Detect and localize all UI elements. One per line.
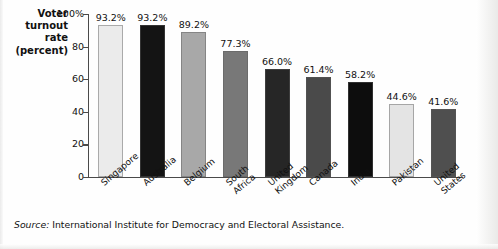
page-left-edge — [0, 0, 3, 249]
bar-item[interactable]: 89.2% — [181, 14, 206, 177]
bar-series: 93.2%93.2%89.2%77.3%66.0%61.4%58.2%44.6%… — [89, 14, 463, 177]
bar-item[interactable]: 93.2% — [98, 14, 123, 177]
y-tick-label-0: 0 — [50, 171, 84, 182]
bar-item[interactable]: 44.6% — [389, 14, 414, 177]
bar-item[interactable]: 66.0% — [265, 14, 290, 177]
bar-item[interactable]: 41.6% — [431, 14, 456, 177]
bar-value-label: 44.6% — [387, 91, 417, 102]
page-bottom-edge — [0, 244, 498, 249]
bar-singapore[interactable] — [98, 25, 123, 177]
page-right-edge — [476, 0, 498, 249]
y-tick-label-20: 20 — [50, 138, 84, 149]
bar-value-label: 77.3% — [220, 38, 250, 49]
bar-value-label: 61.4% — [303, 64, 333, 75]
source-note: Source: International Institute for Demo… — [14, 219, 344, 230]
bar-item[interactable]: 61.4% — [306, 14, 331, 177]
bar-item[interactable]: 77.3% — [223, 14, 248, 177]
y-axis-tick-labels: 100%806040200 — [48, 14, 84, 178]
y-tick-label-100: 100% — [50, 8, 84, 19]
y-tick-0 — [83, 177, 89, 178]
bar-value-label: 41.6% — [428, 96, 458, 107]
bar-australia[interactable] — [140, 25, 165, 177]
bar-value-label: 93.2% — [96, 12, 126, 23]
bar-value-label: 93.2% — [137, 12, 167, 23]
bar-item[interactable]: 93.2% — [140, 14, 165, 177]
source-prefix: Source: — [14, 219, 49, 230]
source-text: International Institute for Democracy an… — [49, 219, 344, 230]
bar-belgium[interactable] — [181, 32, 206, 177]
bar-value-label: 89.2% — [179, 19, 209, 30]
y-tick-label-80: 80 — [50, 41, 84, 52]
bar-item[interactable]: 58.2% — [348, 14, 373, 177]
y-tick-label-60: 60 — [50, 73, 84, 84]
bar-south-africa[interactable] — [223, 51, 248, 177]
bar-value-label: 66.0% — [262, 56, 292, 67]
bar-value-label: 58.2% — [345, 69, 375, 80]
y-tick-label-40: 40 — [50, 106, 84, 117]
bar-india[interactable] — [348, 82, 373, 177]
chart-page: Voterturnoutrate(percent) 100%806040200 … — [0, 0, 498, 249]
plot-area: 93.2%93.2%89.2%77.3%66.0%61.4%58.2%44.6%… — [88, 14, 463, 178]
bar-united-kingdom[interactable] — [265, 69, 290, 177]
